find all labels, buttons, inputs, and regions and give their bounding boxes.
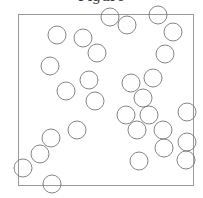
circle xyxy=(130,152,148,170)
circle xyxy=(48,26,66,44)
circle xyxy=(101,8,119,26)
circle xyxy=(74,29,92,47)
circle xyxy=(144,69,162,87)
circle xyxy=(156,45,174,63)
circle xyxy=(31,145,49,163)
circle xyxy=(140,106,158,124)
circle xyxy=(128,121,146,139)
circle xyxy=(14,159,32,177)
circle-diagram xyxy=(0,0,203,198)
circle xyxy=(57,82,75,100)
circle xyxy=(117,106,135,124)
bounding-box xyxy=(19,15,194,186)
circle xyxy=(42,129,60,147)
circle xyxy=(154,121,172,139)
circle xyxy=(68,121,86,139)
circles-group xyxy=(14,6,196,193)
circle xyxy=(41,57,59,75)
circle xyxy=(43,175,61,193)
circle xyxy=(134,89,152,107)
circle xyxy=(155,139,173,157)
circle xyxy=(122,74,140,92)
circle xyxy=(86,92,104,110)
circle xyxy=(118,16,136,34)
circle xyxy=(177,151,195,169)
circle xyxy=(80,71,98,89)
circle xyxy=(88,44,106,62)
circle xyxy=(164,23,182,41)
